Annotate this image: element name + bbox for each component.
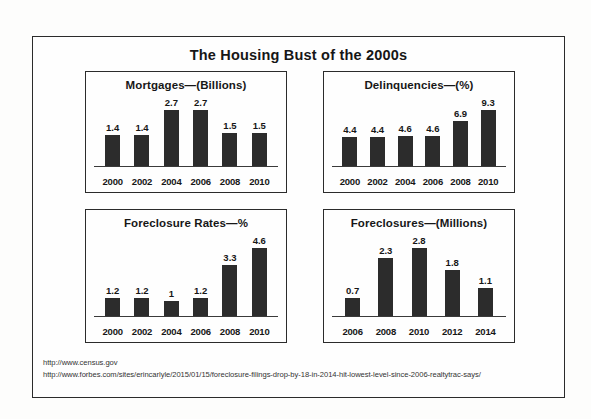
bar-value-label: 1.4 [135, 123, 148, 133]
bar [222, 133, 237, 166]
bar [252, 133, 267, 166]
bar-value-label: 1.5 [253, 121, 266, 131]
x-tick-label: 2000 [98, 326, 127, 337]
chart-title-mortgages: Mortgages—(Billions) [86, 79, 286, 91]
x-tick-label: 2010 [245, 176, 274, 187]
bar [445, 270, 460, 316]
x-tick-label: 2004 [157, 326, 186, 337]
bar-value-label: 2.8 [412, 236, 425, 246]
bar-column: 1.2 [127, 236, 156, 316]
bar [342, 137, 357, 166]
bar [134, 298, 149, 316]
bars-foreclosures: 0.72.32.81.81.1 [336, 236, 502, 316]
bar [412, 248, 427, 316]
bar-value-label: 1 [169, 289, 174, 299]
bar-column: 1.2 [186, 236, 215, 316]
bar [398, 136, 413, 166]
bar [164, 110, 179, 166]
bar-value-label: 4.6 [399, 124, 412, 134]
bars-mortgages: 1.41.42.72.71.51.5 [98, 98, 274, 166]
bar-column: 1.8 [436, 236, 469, 316]
bar [105, 135, 120, 166]
bar-column: 2.3 [369, 236, 402, 316]
bar-column: 4.6 [419, 98, 447, 166]
bar [222, 265, 237, 316]
bar-column: 2.8 [402, 236, 435, 316]
bar-column: 1.5 [245, 98, 274, 166]
x-tick-labels-foreclosures: 20062008201020122014 [336, 326, 502, 337]
bar-value-label: 9.3 [482, 98, 495, 108]
x-tick-label: 2004 [391, 176, 419, 187]
bar-value-label: 4.6 [426, 124, 439, 134]
bars-foreclosure-rates: 1.21.211.23.34.6 [98, 236, 274, 316]
chart-panel-delinquencies: Delinquencies—(%) 4.44.44.64.66.99.3 200… [323, 71, 515, 193]
bar [164, 301, 179, 316]
x-tick-label: 2010 [402, 326, 435, 337]
x-tick-label: 2000 [98, 176, 127, 187]
plot-area-mortgages: 1.41.42.72.71.51.5 200020022004200620082… [94, 98, 278, 188]
x-tick-label: 2008 [369, 326, 402, 337]
bar-column: 1 [157, 236, 186, 316]
bar [378, 258, 393, 316]
chart-panel-mortgages: Mortgages—(Billions) 1.41.42.72.71.51.5 … [85, 71, 287, 193]
bar [481, 110, 496, 166]
bar [453, 121, 468, 166]
chart-panel-foreclosures: Foreclosures—(Millions) 0.72.32.81.81.1 … [323, 209, 515, 343]
x-tick-label: 2010 [474, 176, 502, 187]
bar-value-label: 1.8 [446, 258, 459, 268]
bar-column: 2.7 [157, 98, 186, 166]
x-tick-label: 2006 [186, 176, 215, 187]
bar-column: 1.5 [215, 98, 244, 166]
bar-value-label: 2.7 [165, 98, 178, 108]
x-tick-label: 2008 [447, 176, 475, 187]
bar-value-label: 1.2 [194, 286, 207, 296]
bar [193, 298, 208, 316]
bar [425, 136, 440, 166]
x-tick-label: 2002 [364, 176, 392, 187]
bar-column: 9.3 [474, 98, 502, 166]
plot-area-foreclosure-rates: 1.21.211.23.34.6 20002002200420062008201… [94, 236, 278, 338]
bars-delinquencies: 4.44.44.64.66.99.3 [336, 98, 502, 166]
bar-value-label: 1.1 [479, 276, 492, 286]
x-axis-mortgages [94, 166, 278, 167]
x-tick-label: 2008 [215, 326, 244, 337]
bar-column: 4.4 [336, 98, 364, 166]
bar-column: 6.9 [447, 98, 475, 166]
x-tick-label: 2002 [127, 326, 156, 337]
chart-title-delinquencies: Delinquencies—(%) [324, 79, 514, 91]
bar [193, 110, 208, 166]
bar [478, 288, 493, 316]
x-tick-label: 2002 [127, 176, 156, 187]
chart-title-foreclosures: Foreclosures—(Millions) [324, 217, 514, 229]
x-tick-labels-mortgages: 200020022004200620082010 [98, 176, 274, 187]
bar [134, 135, 149, 166]
bar-value-label: 0.7 [346, 286, 359, 296]
bar-value-label: 1.2 [106, 286, 119, 296]
source-notes: http://www.census.gov http://www.forbes.… [43, 357, 481, 381]
source-line-forbes: http://www.forbes.com/sites/erincarlyle/… [43, 369, 481, 381]
source-line-census: http://www.census.gov [43, 357, 481, 369]
figure-title: The Housing Bust of the 2000s [33, 47, 564, 63]
plot-area-delinquencies: 4.44.44.64.66.99.3 200020022004200620082… [332, 98, 506, 188]
bar-column: 1.4 [127, 98, 156, 166]
bar-value-label: 2.7 [194, 98, 207, 108]
bar-value-label: 1.2 [135, 286, 148, 296]
x-tick-labels-foreclosure-rates: 200020022004200620082010 [98, 326, 274, 337]
chart-panel-foreclosure-rates: Foreclosure Rates—% 1.21.211.23.34.6 200… [85, 209, 287, 343]
x-tick-label: 2012 [436, 326, 469, 337]
x-axis-foreclosures [332, 316, 506, 317]
bar [252, 248, 267, 316]
bar-column: 1.1 [469, 236, 502, 316]
bar-value-label: 3.3 [223, 253, 236, 263]
bar-value-label: 4.4 [371, 125, 384, 135]
bar-column: 1.2 [98, 236, 127, 316]
x-tick-label: 2008 [215, 176, 244, 187]
x-tick-label: 2004 [157, 176, 186, 187]
figure-frame: The Housing Bust of the 2000s Mortgages—… [32, 36, 565, 398]
x-axis-delinquencies [332, 166, 506, 167]
plot-area-foreclosures: 0.72.32.81.81.1 20062008201020122014 [332, 236, 506, 338]
bar-column: 4.4 [364, 98, 392, 166]
bar-value-label: 1.4 [106, 123, 119, 133]
bar-column: 0.7 [336, 236, 369, 316]
bar-column: 4.6 [391, 98, 419, 166]
